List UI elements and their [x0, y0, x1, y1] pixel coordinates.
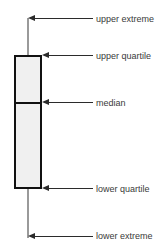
lower-whisker	[27, 188, 29, 237]
boxplot-diagram: upper extreme upper quartile median lowe…	[0, 0, 165, 251]
arrow-median	[42, 99, 49, 105]
leader-line-lower-extreme	[35, 236, 93, 237]
label-lower-extreme: lower extreme	[96, 231, 153, 241]
arrow-lower-extreme	[28, 233, 35, 239]
arrow-upper-extreme	[28, 15, 35, 21]
leader-line-median	[49, 102, 93, 103]
label-upper-extreme: upper extreme	[96, 14, 154, 24]
leader-line-upper-extreme	[35, 18, 93, 19]
label-upper-quartile: upper quartile	[96, 51, 151, 61]
interquartile-box	[14, 55, 42, 189]
upper-whisker	[27, 18, 29, 56]
arrow-lower-quartile	[42, 185, 49, 191]
leader-line-lower-quartile	[49, 188, 93, 189]
arrow-upper-quartile	[42, 52, 49, 58]
leader-line-upper-quartile	[49, 55, 93, 56]
median-line	[14, 102, 42, 104]
label-median: median	[96, 98, 126, 108]
label-lower-quartile: lower quartile	[96, 184, 150, 194]
